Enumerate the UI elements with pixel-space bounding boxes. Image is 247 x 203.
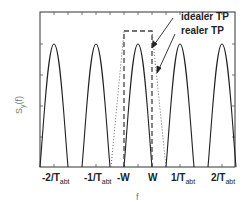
spectrum-lobes: [40, 44, 236, 167]
real-lowpass: [111, 31, 166, 167]
xtick-minus-2: -2/Tabt: [42, 172, 70, 185]
lobe-minus-2: [40, 44, 68, 167]
xtick-plus-2: 2/Tabt: [211, 172, 235, 185]
y-axis-label: Sy(f): [14, 96, 27, 114]
x-axis-label: f: [136, 192, 139, 202]
xtick-plus-1: 1/Tabt: [171, 172, 195, 185]
lobe-minus-1: [82, 44, 110, 167]
legend-ideal: idealer TP: [181, 11, 229, 22]
lobe-0: [124, 44, 152, 167]
lobe-plus-1: [166, 44, 194, 167]
legend-real: realer TP: [181, 25, 224, 36]
xtick-minus-w: -W: [117, 172, 130, 183]
chart: idealer TP realer TP -2/Tabt -1/Tabt -W …: [0, 0, 247, 203]
ideal-lowpass: [124, 31, 152, 167]
lobe-plus-2: [208, 44, 236, 167]
xtick-w: W: [148, 172, 158, 183]
xtick-minus-1: -1/Tabt: [84, 172, 112, 185]
